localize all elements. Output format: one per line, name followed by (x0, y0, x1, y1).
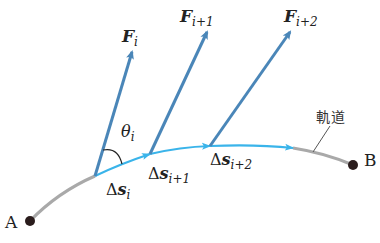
delta-symbol: Δ (210, 150, 222, 169)
force-symbol: F (284, 6, 296, 26)
force-arrow-i-plus-2 (210, 32, 290, 146)
force-arrow-i (95, 52, 132, 176)
displacement-label-i: Δsi (106, 182, 130, 201)
displacement-vector-symbol: s (118, 180, 127, 199)
force-arrow-i-plus-1 (150, 32, 207, 154)
point-a-dot (25, 216, 35, 226)
displacement-vector-symbol: s (222, 150, 231, 169)
point-b-label: B (364, 152, 377, 169)
displacement-subscript: i (127, 188, 131, 202)
angle-subscript: i (131, 130, 135, 144)
displacement-arrow-i (95, 154, 150, 176)
force-subscript: i+1 (192, 15, 214, 29)
point-a-label: A (5, 214, 17, 231)
force-symbol: F (122, 26, 134, 46)
trajectory-end-segment (293, 148, 353, 165)
angle-symbol: θ (121, 122, 131, 141)
displacement-subscript: i+1 (169, 172, 191, 186)
trajectory-start-segment (30, 176, 95, 221)
trajectory-leader-line (313, 126, 330, 152)
displacement-label-i-plus-2: Δsi+2 (210, 152, 252, 171)
delta-symbol: Δ (148, 164, 160, 183)
displacement-vector-symbol: s (160, 164, 169, 183)
force-symbol: F (180, 6, 192, 26)
force-label-i: Fi (122, 28, 138, 48)
angle-arc-theta-i (103, 150, 122, 164)
force-subscript: i (134, 35, 138, 49)
force-subscript: i+2 (296, 15, 318, 29)
point-b-dot (348, 160, 358, 170)
displacement-subscript: i+2 (231, 158, 253, 172)
delta-symbol: Δ (106, 180, 118, 199)
trajectory-label: 軌道 (316, 110, 346, 124)
displacement-label-i-plus-1: Δsi+1 (148, 166, 190, 185)
displacement-arrow-i-plus-2 (210, 145, 293, 148)
force-label-i-plus-2: Fi+2 (284, 8, 318, 28)
force-label-i-plus-1: Fi+1 (180, 8, 214, 28)
angle-label-theta-i: θi (121, 124, 134, 143)
displacement-arrow-i-plus-1 (150, 146, 210, 154)
